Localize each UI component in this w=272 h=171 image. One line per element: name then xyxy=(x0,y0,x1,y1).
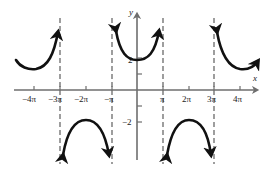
axes-group xyxy=(14,14,257,160)
x-tick-label-neg-4pi: −4π xyxy=(22,95,36,104)
y-tick-label-2: 2 xyxy=(128,56,133,65)
branch-right-partial-upward xyxy=(217,32,258,69)
x-tick-label-3pi: 3π xyxy=(207,95,216,104)
x-axis-label: x xyxy=(253,74,257,83)
x-tick-label-2pi: 2π xyxy=(182,95,191,104)
x-tick-label-neg-3pi: −3π xyxy=(48,95,62,104)
x-tick-label-pi: π xyxy=(160,95,165,104)
x-tick-label-neg-pi: −π xyxy=(104,95,114,104)
y-tick-label-neg-2: −2 xyxy=(122,118,132,127)
x-tick-label-4pi: 4π xyxy=(233,95,242,104)
function-graph xyxy=(0,0,272,171)
branch-right-downward-arch xyxy=(167,120,211,155)
x-tick-label-neg-2pi: −2π xyxy=(74,95,88,104)
branch-left-partial-upward xyxy=(16,32,58,69)
branch-left-downward-arch xyxy=(63,120,109,155)
y-axis-label: y xyxy=(129,8,133,17)
